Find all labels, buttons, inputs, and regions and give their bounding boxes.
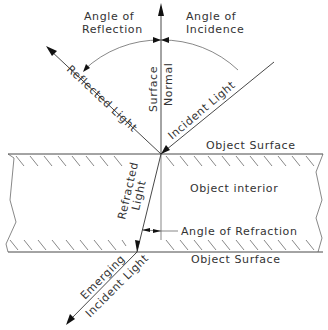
incidence-arc-arrow-top-icon <box>161 37 169 43</box>
angle-of-reflection-label-2: Reflection <box>82 23 143 36</box>
normal-arrow-icon <box>158 3 164 16</box>
incident-light-label: Incident Light <box>166 78 239 142</box>
emerging-light-ray <box>66 252 137 325</box>
light-refraction-diagram: Angle of Reflection Angle of Incidence R… <box>0 0 328 330</box>
top-surface-hatching <box>16 156 314 166</box>
object-interior-label: Object interior <box>190 182 278 195</box>
diagram-canvas: Angle of Reflection Angle of Incidence R… <box>0 0 328 330</box>
refraction-arrow-left-icon <box>142 228 150 232</box>
refraction-arrow-right-icon <box>153 229 161 233</box>
angle-of-incidence-label-2: Incidence <box>186 23 244 36</box>
right-break-line <box>316 154 323 252</box>
reflected-light-label: Reflected Light <box>64 63 140 135</box>
angle-of-reflection-label-1: Angle of <box>84 10 135 23</box>
object-surface-bottom-label: Object Surface <box>191 253 281 266</box>
bottom-surface-hatching <box>10 240 314 250</box>
incidence-arc-arrow-icon <box>233 64 239 72</box>
reflection-angle-arc <box>84 40 161 70</box>
refraction-angle-marker <box>142 228 178 233</box>
surface-label: Surface <box>147 66 160 112</box>
incident-arrow-icon <box>161 145 170 154</box>
left-break-line <box>6 154 16 252</box>
surface-normal <box>158 3 164 240</box>
normal-label: Normal <box>162 63 175 106</box>
angle-of-refraction-label: Angle of Refraction <box>181 225 297 238</box>
emerging-arrow-icon <box>66 314 75 325</box>
angle-of-incidence-label-1: Angle of <box>186 10 237 23</box>
reflection-arc-arrow-top-icon <box>153 37 161 43</box>
object-surface-top-label: Object Surface <box>206 139 296 152</box>
